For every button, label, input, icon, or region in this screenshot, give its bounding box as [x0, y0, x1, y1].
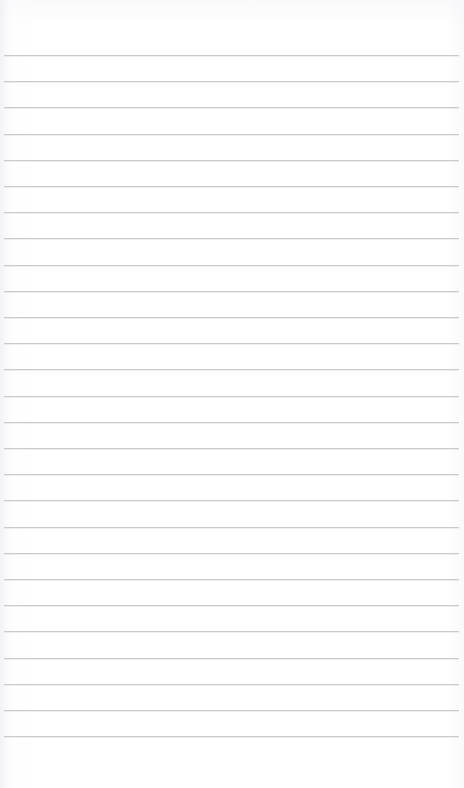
notebook-page [0, 0, 464, 788]
bottom-margin-area [0, 736, 464, 788]
writing-area[interactable] [4, 55, 459, 736]
